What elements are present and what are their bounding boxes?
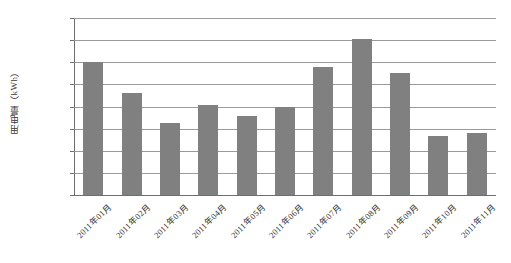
- bar[interactable]: [352, 39, 372, 195]
- x-axis-tick-label: 2011年04月: [189, 200, 229, 240]
- x-axis-tick-label: 2011年03月: [150, 200, 190, 240]
- x-axis-tick-label: 2011年02月: [112, 200, 152, 240]
- bar-slot: [189, 18, 227, 195]
- bar[interactable]: [160, 123, 180, 195]
- x-axis-tick-label: 2011年08月: [342, 200, 382, 240]
- bar[interactable]: [390, 73, 410, 195]
- bar-slot: [304, 18, 342, 195]
- bar[interactable]: [83, 62, 103, 195]
- bar-slot: [458, 18, 496, 195]
- bar-slot: [419, 18, 457, 195]
- x-axis-tick-label: 2011年07月: [304, 200, 344, 240]
- x-axis-tick-label: 2011年09月: [380, 200, 420, 240]
- bar[interactable]: [237, 116, 257, 195]
- bar-chart: 用电量（kWh） 8000007000006000005000004000003…: [0, 0, 511, 263]
- bar-slot: [112, 18, 150, 195]
- bar[interactable]: [198, 105, 218, 195]
- y-axis-title: 用电量（kWh）: [2, 0, 24, 200]
- x-axis-tick-label: 2011年05月: [227, 200, 267, 240]
- bar[interactable]: [275, 107, 295, 196]
- bar-slot: [381, 18, 419, 195]
- bar-slot: [227, 18, 265, 195]
- bar[interactable]: [122, 93, 142, 195]
- x-axis-labels: 2011年01月2011年02月2011年03月2011年04月2011年05月…: [74, 196, 496, 263]
- bar-slot: [266, 18, 304, 195]
- bar[interactable]: [313, 67, 333, 195]
- bar-slot: [343, 18, 381, 195]
- y-axis-title-text: 用电量（kWh）: [7, 67, 20, 134]
- x-axis-tick-label: 2011年01月: [73, 200, 113, 240]
- x-axis-tick-label: 2011年11月: [457, 200, 497, 240]
- bar[interactable]: [428, 136, 448, 195]
- bar-series: [74, 18, 496, 195]
- plot-area: 8000007000006000005000004000003000002000…: [74, 18, 496, 195]
- bar-slot: [151, 18, 189, 195]
- bar-slot: [74, 18, 112, 195]
- x-axis-tick-label: 2011年06月: [265, 200, 305, 240]
- bar[interactable]: [467, 133, 487, 195]
- x-axis-tick-label: 2011年10月: [419, 200, 459, 240]
